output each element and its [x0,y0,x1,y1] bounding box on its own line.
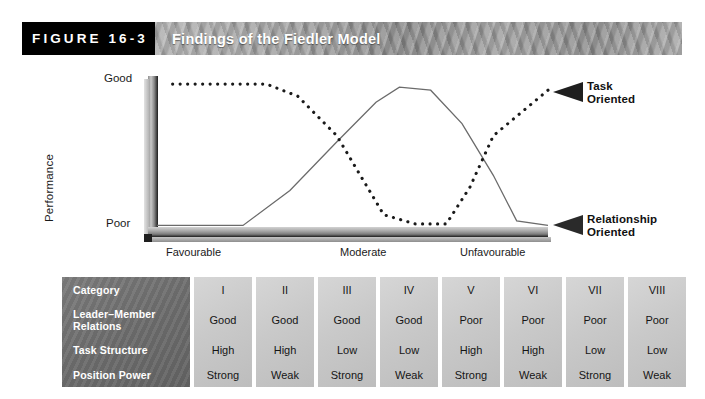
cell-power-ii: Weak [256,363,314,387]
cell-relations-iii: Good [318,303,376,337]
task-oriented-line [173,84,548,224]
legend-task-line2: Oriented [587,93,635,106]
row-label-relations: Leader–Member Relations [62,303,190,337]
cell-structure-vi: High [504,337,562,363]
cell-structure-iii: Low [318,337,376,363]
table-column-v: VPoorHighStrong [442,277,500,387]
relationship-oriented-arrow-icon [553,215,583,235]
cell-category-vii: VII [566,277,624,303]
cell-power-iv: Weak [380,363,438,387]
figure-title: Findings of the Fiedler Model [155,22,381,55]
table-column-viii: VIIIPoorLowWeak [628,277,686,387]
table-column-vi: VIPoorHighWeak [504,277,562,387]
cell-power-i: Strong [194,363,252,387]
cell-structure-i: High [194,337,252,363]
cell-category-i: I [194,277,252,303]
cell-power-vii: Strong [566,363,624,387]
cell-relations-viii: Poor [628,303,686,337]
cell-power-v: Strong [442,363,500,387]
cell-relations-vi: Poor [504,303,562,337]
cell-relations-v: Poor [442,303,500,337]
cell-category-vi: VI [504,277,562,303]
table-column-vii: VIIPoorLowStrong [566,277,624,387]
row-label-category: Category [62,277,190,303]
legend-task-line1: Task [587,80,635,93]
cell-relations-vii: Poor [566,303,624,337]
cell-category-viii: VIII [628,277,686,303]
fiedler-contingency-table: Category Leader–Member Relations Task St… [62,277,686,387]
cell-power-vi: Weak [504,363,562,387]
table-column-ii: IIGoodHighWeak [256,277,314,387]
cell-structure-viii: Low [628,337,686,363]
cell-category-ii: II [256,277,314,303]
legend-task-oriented: Task Oriented [587,80,635,106]
cell-structure-vii: Low [566,337,624,363]
cell-structure-ii: High [256,337,314,363]
row-label-structure: Task Structure [62,337,190,363]
cell-relations-i: Good [194,303,252,337]
legend-rel-line2: Oriented [587,226,657,239]
figure-banner: FIGURE 16-3 Findings of the Fiedler Mode… [22,22,682,55]
cell-relations-ii: Good [256,303,314,337]
legend-rel-line1: Relationship [587,213,657,226]
cell-power-iii: Strong [318,363,376,387]
cell-structure-iv: Low [380,337,438,363]
figure-number-tag: FIGURE 16-3 [22,22,155,55]
table-column-iv: IVGoodLowWeak [380,277,438,387]
table-column-i: IGoodHighStrong [194,277,252,387]
cell-category-iii: III [318,277,376,303]
cell-category-v: V [442,277,500,303]
cell-structure-v: High [442,337,500,363]
fiedler-model-chart: Performance Good Poor Favourable Moderat… [0,62,705,262]
cell-power-viii: Weak [628,363,686,387]
row-label-power: Position Power [62,363,190,387]
relationship-oriented-line [157,87,548,225]
task-oriented-arrow-icon [553,82,583,102]
table-row-label-column: Category Leader–Member Relations Task St… [62,277,190,387]
cell-relations-iv: Good [380,303,438,337]
table-column-iii: IIIGoodLowStrong [318,277,376,387]
cell-category-iv: IV [380,277,438,303]
legend-relationship-oriented: Relationship Oriented [587,213,657,239]
